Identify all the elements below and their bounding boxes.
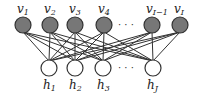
- node-v2: [42, 17, 58, 33]
- node-label-v2: v2: [44, 2, 56, 17]
- edge: [49, 32, 50, 61]
- node-hJ: [145, 60, 161, 76]
- connection-edges: [23, 32, 180, 61]
- edge: [75, 32, 180, 61]
- node-label-v4: v4: [98, 2, 110, 17]
- node-vI: [172, 17, 188, 33]
- node-label-hJ: hJ: [147, 78, 159, 93]
- edge: [153, 32, 180, 61]
- hidden-ellipsis: · · ·: [118, 62, 134, 73]
- hidden-layer: h1h2h3hJ: [41, 60, 161, 93]
- node-label-h1: h1: [43, 78, 56, 93]
- node-label-h2: h2: [69, 78, 82, 93]
- visible-ellipsis: · · ·: [118, 19, 134, 30]
- node-v1: [15, 17, 31, 33]
- node-label-h3: h3: [97, 78, 110, 93]
- node-h1: [41, 60, 57, 76]
- node-label-v3: v3: [69, 2, 81, 17]
- node-h3: [95, 60, 111, 76]
- edge: [152, 32, 153, 61]
- node-label-vI-1: vI−1: [146, 2, 168, 17]
- rbm-network-diagram: v1v2v3v4vI−1vI h1h2h3hJ · · · · · ·: [0, 0, 202, 95]
- node-vI-1: [144, 17, 160, 33]
- edge: [103, 32, 104, 61]
- node-label-vI: vI: [174, 2, 185, 17]
- visible-layer: v1v2v3v4vI−1vI: [15, 2, 188, 33]
- node-label-v1: v1: [17, 2, 29, 17]
- node-v4: [96, 17, 112, 33]
- node-h2: [67, 60, 83, 76]
- node-v3: [67, 17, 83, 33]
